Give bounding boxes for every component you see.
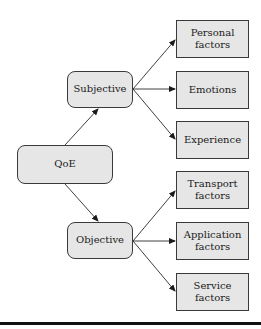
leaf-node-label: Transport factors (187, 178, 239, 203)
root-node-label: QoE (54, 158, 76, 171)
leaf-node-experience: Experience (176, 121, 249, 159)
leaf-node-label: Personal factors (189, 27, 237, 52)
leaf-node-label: Application factors (182, 229, 244, 254)
leaf-node-emotions: Emotions (176, 71, 249, 109)
branch-node-subjective: Subjective (67, 71, 133, 108)
leaf-node-application-factors: Application factors (176, 222, 249, 260)
leaf-node-label: Emotions (189, 84, 237, 97)
leaf-node-transport-factors: Transport factors (176, 171, 249, 209)
leaf-node-label: Service factors (191, 280, 235, 305)
leaf-node-service-factors: Service factors (176, 273, 249, 311)
leaf-node-label: Experience (184, 134, 241, 147)
branch-node-label: Objective (76, 234, 124, 247)
bottom-rule-divider (0, 322, 261, 325)
root-node-qoe: QoE (17, 145, 113, 184)
branch-node-objective: Objective (67, 222, 133, 259)
branch-node-label: Subjective (73, 83, 126, 96)
leaf-node-personal-factors: Personal factors (176, 20, 249, 58)
